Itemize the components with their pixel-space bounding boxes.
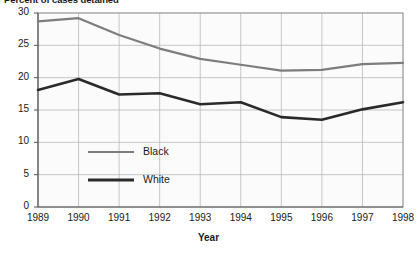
y-tick-label: 10 xyxy=(7,135,29,146)
x-tick-label: 1993 xyxy=(180,212,220,223)
x-tick-label: 1995 xyxy=(261,212,301,223)
x-axis-title: Year xyxy=(0,232,417,243)
x-tick-label: 1991 xyxy=(99,212,139,223)
legend-label-black: Black xyxy=(143,145,169,157)
x-tick-label: 1996 xyxy=(302,212,342,223)
y-tick-label: 5 xyxy=(7,168,29,179)
y-tick-label: 25 xyxy=(7,38,29,49)
legend-label-white: White xyxy=(143,173,170,185)
y-tick-label: 15 xyxy=(7,103,29,114)
x-tick-label: 1998 xyxy=(383,212,417,223)
chart-figure: Percent of cases detained 051015202530 1… xyxy=(0,0,417,254)
plot-area: 051015202530 198919901991199219931994199… xyxy=(0,0,417,254)
x-tick-label: 1997 xyxy=(342,212,382,223)
x-tick-label: 1992 xyxy=(140,212,180,223)
x-tick-label: 1990 xyxy=(59,212,99,223)
y-tick-label: 30 xyxy=(7,6,29,17)
x-tick-label: 1994 xyxy=(221,212,261,223)
y-tick-label: 20 xyxy=(7,71,29,82)
y-tick-label: 0 xyxy=(7,200,29,211)
x-tick-label: 1989 xyxy=(18,212,58,223)
